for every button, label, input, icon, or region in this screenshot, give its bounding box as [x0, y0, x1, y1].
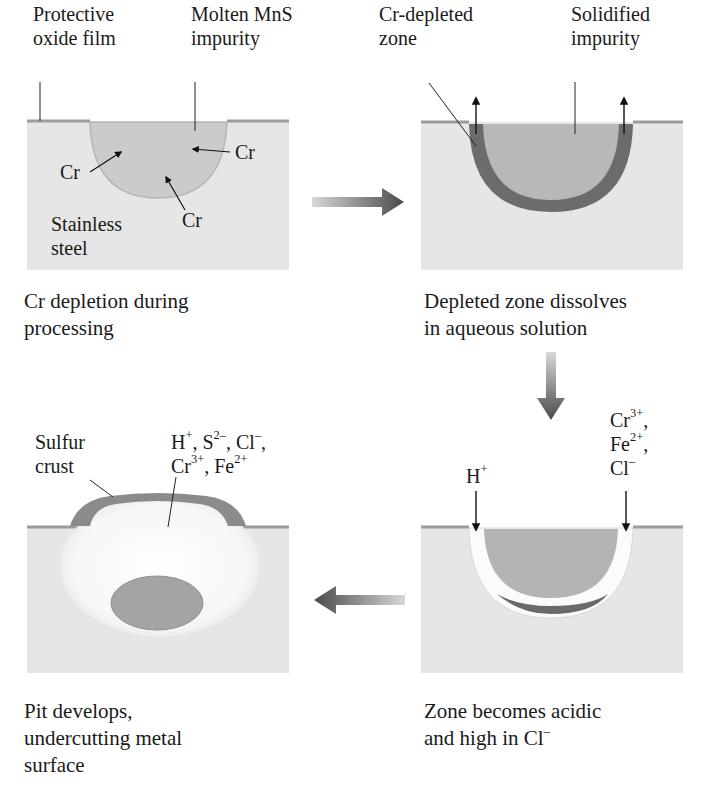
label-molten-mns: Molten MnS impurity — [191, 2, 293, 50]
ion-symbol: Cr — [610, 409, 630, 431]
ion-charge: 2– — [214, 428, 226, 442]
label-line: steel — [51, 236, 122, 260]
caption-line: surface — [24, 752, 182, 779]
arrow-right-icon — [312, 188, 404, 216]
caption-line: undercutting metal — [24, 725, 182, 752]
ion-symbol: H — [466, 465, 480, 487]
label-line: zone — [379, 26, 473, 50]
label-cr-left: Cr — [60, 160, 80, 184]
caption-line: Cr depletion during — [24, 288, 188, 315]
ion-symbol: S — [202, 431, 213, 453]
pit-mouth — [90, 522, 227, 532]
ion-symbol: Cr — [171, 455, 191, 477]
label-line: impurity — [191, 26, 293, 50]
label-cr-bottom: Cr — [182, 208, 202, 232]
caption-line: in aqueous solution — [424, 315, 627, 342]
caption-step-1: Cr depletion during processing — [24, 288, 188, 342]
label-line: Sulfur — [35, 430, 85, 454]
caption-step-4: Pit develops, undercutting metal surface — [24, 698, 182, 779]
separator: , — [261, 431, 266, 453]
label-line: Stainless — [51, 212, 122, 236]
arrow-left-icon — [314, 586, 405, 614]
impurity-remnant — [111, 576, 203, 630]
separator: , — [226, 431, 236, 453]
ion-charge: – — [255, 428, 261, 442]
label-line: Cr-depleted — [379, 2, 473, 26]
separator: , — [643, 409, 648, 431]
caption-step-3: Zone becomes acidic and high in Cl– — [424, 698, 601, 752]
ion-charge: – — [544, 723, 551, 738]
label-line: impurity — [571, 26, 650, 50]
ion-charge: + — [480, 462, 487, 476]
ion-symbol: Fe — [610, 433, 630, 455]
arrow-down-icon — [537, 352, 565, 420]
label-sulfur-crust: Sulfur crust — [35, 430, 85, 478]
panel-step-2 — [421, 82, 683, 270]
ion-symbol: H — [171, 431, 185, 453]
ion-symbol: Cl — [236, 431, 255, 453]
separator: , — [204, 455, 214, 477]
caption-line: processing — [24, 315, 188, 342]
label-stainless-steel: Stainless steel — [51, 212, 122, 260]
label-solidified-impurity: Solidified impurity — [571, 2, 650, 50]
ion-charge: + — [185, 428, 192, 442]
label-protective-film: Protective oxide film — [33, 2, 116, 50]
label-line: crust — [35, 454, 85, 478]
caption-step-2: Depleted zone dissolves in aqueous solut… — [424, 288, 627, 342]
label-cr-right: Cr — [235, 140, 255, 164]
ion-charge: 2+ — [234, 452, 247, 466]
ion-charge: 3+ — [191, 452, 204, 466]
label-h-ion: H+ — [466, 464, 487, 488]
ion-charge: 3+ — [630, 406, 643, 420]
label-line: Protective — [33, 2, 116, 26]
ion-symbol: Fe — [214, 455, 234, 477]
ion-symbol: Cl — [610, 457, 629, 479]
caption-line: Pit develops, — [24, 698, 182, 725]
label-line: Solidified — [571, 2, 650, 26]
ion-charge: – — [629, 454, 635, 468]
label-line: Molten MnS — [191, 2, 293, 26]
separator: , — [192, 431, 202, 453]
caption-line: and high in Cl — [424, 726, 544, 750]
ion-charge: 2+ — [630, 430, 643, 444]
label-outgoing-ions: Cr3+, Fe2+, Cl– — [610, 408, 648, 480]
label-pit-ions: H+, S2–, Cl–, Cr3+, Fe2+ — [171, 430, 266, 478]
panel-step-3 — [421, 491, 683, 673]
separator: , — [643, 433, 648, 455]
leader-line — [90, 480, 113, 497]
label-line: oxide film — [33, 26, 116, 50]
caption-line: Zone becomes acidic — [424, 698, 601, 725]
label-cr-depleted-zone: Cr-depleted zone — [379, 2, 473, 50]
diagram-canvas — [0, 0, 704, 790]
caption-line: Depleted zone dissolves — [424, 288, 627, 315]
panel-step-4 — [27, 477, 289, 673]
